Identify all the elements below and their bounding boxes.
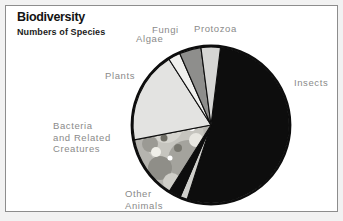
pie-chart-svg xyxy=(126,40,296,210)
slice-label-protozoa: Protozoa xyxy=(194,23,237,35)
pie-chart xyxy=(126,40,296,210)
title-block: Biodiversity Numbers of Species xyxy=(17,10,105,38)
slice-label-bacteria: Bacteria and Related Creatures xyxy=(53,120,111,155)
page-title: Biodiversity xyxy=(17,10,105,24)
chart-subtitle: Numbers of Species xyxy=(17,26,105,38)
slice-label-plants: Plants xyxy=(105,70,135,82)
pie-slices xyxy=(133,47,289,203)
slice-label-algae: Algae xyxy=(136,33,163,45)
chart-panel: Biodiversity Numbers of Species xyxy=(5,5,338,212)
biodiversity-infographic: Biodiversity Numbers of Species xyxy=(0,0,343,221)
slice-label-other-animals: Other Animals xyxy=(125,188,163,211)
slice-label-insects: Insects xyxy=(294,77,328,89)
